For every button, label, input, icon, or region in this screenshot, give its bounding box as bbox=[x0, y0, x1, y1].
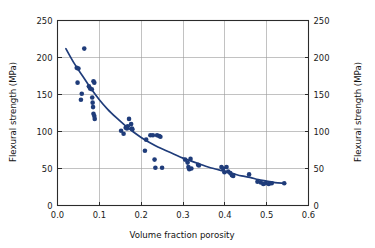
chart-figure: 0.00.10.20.30.40.50.60501001502002500501… bbox=[0, 0, 375, 248]
y-axis-title-right: Flexural strength (MPa) bbox=[353, 62, 363, 162]
y-tick-label-left: 0 bbox=[47, 201, 52, 211]
x-tick-label: 0.2 bbox=[135, 210, 148, 220]
data-point bbox=[129, 122, 134, 127]
flexural-strength-porosity-scatter-chart: 0.00.10.20.30.40.50.60501001502002500501… bbox=[0, 0, 375, 248]
x-tick-label: 0.3 bbox=[176, 210, 189, 220]
data-point bbox=[189, 166, 194, 171]
x-tick-label: 0.4 bbox=[218, 210, 231, 220]
data-point bbox=[75, 80, 80, 85]
y-axis-title-left: Flexural strength (MPa) bbox=[8, 62, 18, 162]
data-point bbox=[127, 117, 132, 122]
y-tick-label-left: 150 bbox=[37, 90, 53, 100]
y-tick-label-right: 0 bbox=[314, 201, 319, 211]
data-point bbox=[90, 87, 95, 92]
data-point bbox=[247, 172, 252, 177]
data-point bbox=[76, 66, 81, 71]
data-point bbox=[151, 133, 156, 138]
y-tick-label-left: 100 bbox=[37, 127, 53, 137]
data-point bbox=[143, 148, 148, 153]
data-point bbox=[282, 181, 287, 186]
data-point bbox=[92, 117, 97, 122]
x-tick-label: 0.1 bbox=[93, 210, 106, 220]
data-point bbox=[158, 134, 163, 139]
x-tick-label: 0.5 bbox=[260, 210, 273, 220]
data-point bbox=[231, 174, 236, 179]
data-point bbox=[269, 181, 274, 186]
x-axis-title: Volume fraction porosity bbox=[129, 230, 234, 240]
y-tick-label-right: 150 bbox=[314, 90, 330, 100]
data-point bbox=[185, 160, 190, 165]
data-point bbox=[144, 137, 149, 142]
y-tick-label-left: 50 bbox=[42, 164, 53, 174]
data-point bbox=[121, 131, 126, 136]
data-point bbox=[160, 165, 165, 170]
data-point bbox=[197, 163, 202, 168]
y-tick-label-left: 250 bbox=[37, 16, 53, 26]
data-point bbox=[224, 165, 229, 170]
data-point bbox=[91, 105, 96, 110]
data-point bbox=[82, 46, 87, 51]
y-tick-label-left: 200 bbox=[37, 53, 53, 63]
data-point bbox=[79, 97, 84, 102]
data-point bbox=[130, 127, 135, 132]
data-point bbox=[90, 95, 95, 100]
data-point bbox=[79, 91, 84, 96]
data-point bbox=[92, 80, 97, 85]
data-point bbox=[153, 165, 158, 170]
y-tick-label-right: 100 bbox=[314, 127, 330, 137]
x-tick-label: 0.6 bbox=[302, 210, 315, 220]
y-tick-label-right: 250 bbox=[314, 16, 330, 26]
data-point bbox=[90, 100, 95, 105]
y-tick-label-right: 200 bbox=[314, 53, 330, 63]
data-point bbox=[188, 157, 193, 162]
x-tick-label: 0.0 bbox=[51, 210, 64, 220]
data-point bbox=[152, 157, 157, 162]
y-tick-label-right: 50 bbox=[314, 164, 325, 174]
